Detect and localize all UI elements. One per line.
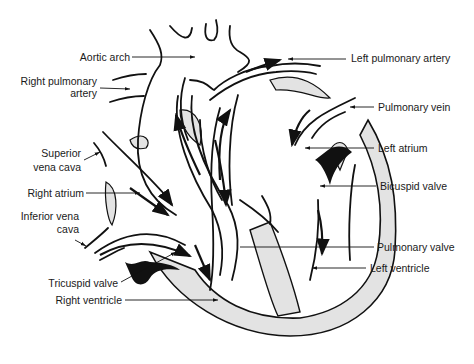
label-inferior-vena-cava-line1: Inferior vena — [0, 209, 79, 223]
pulmonary-vein-wall — [270, 77, 330, 98]
label-right-pulmonary-artery-line2: artery — [0, 86, 97, 100]
label-pulmonary-vein: Pulmonary vein — [378, 100, 450, 114]
label-right-atrium: Right atrium — [0, 186, 84, 200]
right-atrium-wall — [105, 182, 115, 225]
heart-diagram: Aortic arch Right pulmonary artery Super… — [0, 0, 474, 364]
label-aortic-arch: Aortic arch — [50, 50, 130, 64]
label-left-atrium: Left atrium — [378, 141, 428, 155]
label-left-pulmonary-artery: Left pulmonary artery — [351, 51, 450, 65]
septum — [250, 222, 300, 316]
label-inferior-vena-cava-line2: cava — [0, 222, 79, 236]
label-superior-vena-cava-line2: vena cava — [0, 160, 81, 174]
label-left-ventricle: Left ventricle — [370, 261, 430, 275]
label-bicuspid-valve: Bicuspid valve — [380, 179, 447, 193]
label-pulmonary-valve: Pulmonary valve — [377, 240, 455, 254]
label-superior-vena-cava-line1: Superior — [0, 146, 81, 160]
label-right-ventricle: Right ventricle — [0, 293, 122, 307]
label-tricuspid-valve: Tricuspid valve — [0, 276, 118, 290]
svc-gray — [130, 136, 148, 149]
bicuspid-valve-shape — [315, 146, 352, 185]
